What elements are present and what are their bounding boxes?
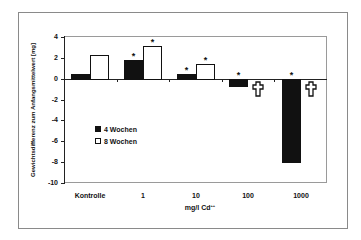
y-tick-label: 2 [40, 54, 58, 62]
legend-label: 8 Wochen [104, 138, 137, 145]
y-tick [61, 162, 65, 163]
y-tick-label: 0 [40, 75, 58, 83]
y-tick-label: -2 [40, 96, 58, 104]
x-tick-label: 10 [171, 192, 221, 199]
bar-4-wochen [282, 79, 301, 163]
bar-8-wochen [143, 46, 162, 80]
y-tick [61, 141, 65, 142]
cross-icon [251, 81, 265, 97]
y-tick-label: -6 [40, 137, 58, 145]
x-tick-label: 100 [223, 192, 273, 199]
bar-4-wochen [71, 74, 90, 80]
legend-swatch-black [95, 126, 101, 132]
bar-4-wochen [229, 79, 248, 87]
x-axis-title: mg/l Cd++ [170, 203, 230, 211]
significance-marker: * [200, 56, 212, 65]
y-tick [61, 100, 65, 101]
legend-item-4-wochen: 4 Wochen [95, 123, 137, 135]
x-tick [169, 79, 170, 82]
x-tick [117, 79, 118, 82]
y-tick-label: 4 [40, 33, 58, 41]
x-tick-label: 1 [118, 192, 168, 199]
legend: 4 Wochen 8 Wochen [95, 123, 137, 147]
cross-icon [304, 81, 318, 97]
legend-label: 4 Wochen [104, 126, 137, 133]
y-tick [61, 183, 65, 184]
y-axis-title: Gewichtsdifferenz zum Anfangsmittelwert … [30, 43, 36, 177]
significance-marker: * [233, 71, 245, 80]
y-tick-label: -8 [40, 158, 58, 166]
y-tick-label: -10 [40, 179, 58, 187]
bar-4-wochen [124, 60, 143, 80]
y-tick [61, 58, 65, 59]
bar-8-wochen [196, 64, 215, 80]
x-tick-label: 1000 [276, 192, 326, 199]
significance-marker: * [147, 38, 159, 47]
y-tick [61, 120, 65, 121]
significance-marker: * [128, 52, 140, 61]
x-tick [222, 79, 223, 82]
significance-marker: * [181, 66, 193, 75]
x-tick [274, 79, 275, 82]
legend-swatch-white [95, 138, 101, 144]
bar-8-wochen [90, 55, 109, 80]
legend-item-8-wochen: 8 Wochen [95, 135, 137, 147]
y-tick-label: -4 [40, 116, 58, 124]
x-tick-label: Kontrolle [65, 192, 115, 199]
significance-marker: * [286, 71, 298, 80]
y-tick [61, 37, 65, 38]
